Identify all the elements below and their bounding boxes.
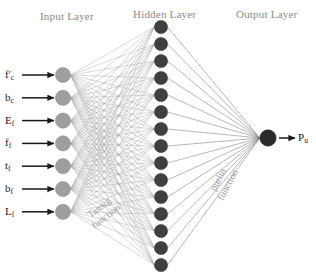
input-layer-title: Input Layer (40, 10, 94, 22)
output-label-pu: Pu (298, 132, 308, 143)
input-label-t-f: tf (5, 160, 11, 171)
input-label-l-f: Lf (5, 206, 14, 217)
output-layer-title: Output Layer (236, 8, 297, 20)
edges-hidden-to-output (168, 27, 260, 265)
hidden-layer-nodes (154, 20, 167, 271)
input-label-f-f: ff (5, 137, 11, 148)
hidden-node (154, 156, 167, 169)
hidden-node (154, 207, 167, 220)
hidden-node (154, 105, 167, 118)
hidden-node (154, 20, 167, 33)
edge-input-hidden (71, 166, 155, 180)
input-label-b-f: bf (5, 183, 13, 194)
edge-input-hidden (71, 44, 155, 75)
edge-hidden-output (168, 95, 260, 138)
output-node (260, 130, 276, 146)
edge-input-hidden (71, 61, 155, 98)
hidden-node (154, 71, 167, 84)
edge-hidden-output (168, 44, 260, 138)
output-layer-node (260, 130, 276, 146)
edge-input-hidden (71, 78, 155, 121)
edge-hidden-output (168, 138, 260, 265)
input-label-b-c: bc (5, 92, 14, 103)
hidden-node (154, 122, 167, 135)
input-node (55, 181, 70, 196)
input-layer-nodes (55, 67, 70, 219)
network-graphics (0, 0, 316, 278)
input-node (55, 159, 70, 174)
input-node (55, 204, 70, 219)
hidden-node (154, 37, 167, 50)
edge-input-hidden (71, 212, 155, 265)
input-node (55, 67, 70, 82)
hidden-node (154, 224, 167, 237)
input-label-e-f: Ef (5, 115, 14, 126)
hidden-node (154, 139, 167, 152)
hidden-node (154, 258, 167, 271)
input-node (55, 136, 70, 151)
edge-input-hidden (71, 27, 155, 143)
hidden-node (154, 241, 167, 254)
input-label-f-c: f′c (5, 69, 14, 80)
edge-hidden-output (168, 78, 260, 138)
edge-hidden-output (168, 112, 260, 138)
edge-hidden-output (168, 61, 260, 138)
hidden-node (154, 54, 167, 67)
neural-network-diagram: Input Layer Hidden Layer Output Layer f′… (0, 0, 316, 278)
edges-input-to-hidden (71, 27, 155, 265)
hidden-node (154, 88, 167, 101)
edge-input-hidden (71, 44, 155, 143)
input-arrows (22, 75, 54, 212)
edge-hidden-output (168, 27, 260, 138)
input-node (55, 113, 70, 128)
edge-hidden-output (168, 129, 260, 138)
input-node (55, 90, 70, 105)
hidden-layer-title: Hidden Layer (133, 8, 196, 20)
edge-input-hidden (71, 44, 155, 98)
hidden-node (154, 190, 167, 203)
hidden-node (154, 173, 167, 186)
